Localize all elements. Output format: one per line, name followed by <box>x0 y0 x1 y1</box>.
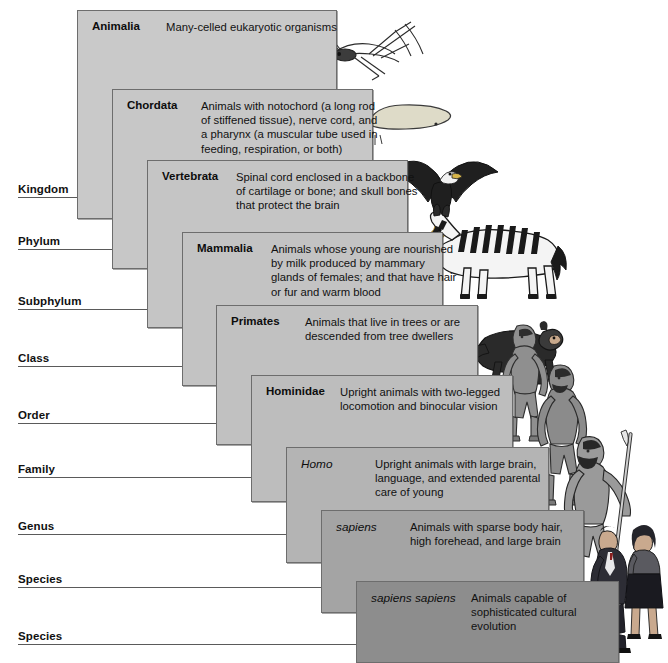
rank-underline <box>18 423 216 424</box>
taxon-card-content: AnimaliaMany-celled eukaryotic organisms <box>92 20 328 34</box>
taxon-description-line: evolution <box>471 619 610 633</box>
taxon-description-line: locomotion and binocular vision <box>340 399 504 413</box>
taxon-description-line: by milk produced by mammary <box>271 256 456 270</box>
taxon-description: Upright animals with large brain,languag… <box>375 457 540 500</box>
taxon-description: Animals capable ofsophisticated cultural… <box>471 591 610 634</box>
taxon-description-line: Animals whose young are nourished <box>271 242 456 256</box>
taxon-description-line: glands of females; and that have hair <box>271 270 456 284</box>
taxon-card-content: sapiensAnimals with sparse body hair,hig… <box>336 520 575 548</box>
taxon-card-sapiens-sapiens: sapiens sapiensAnimals capable ofsophist… <box>356 581 619 663</box>
rank-class-3: Class <box>18 347 182 367</box>
taxon-name: Animalia <box>92 20 166 32</box>
taxon-name: Primates <box>231 315 305 327</box>
rank-label: Order <box>18 409 50 421</box>
taxon-description: Upright animals with two-leggedlocomotio… <box>340 385 504 413</box>
rank-underline <box>18 197 77 198</box>
taxon-name: sapiens <box>336 520 410 534</box>
rank-label: Species <box>18 630 62 642</box>
taxonomy-figure: KingdomPhylumSubphylumClassOrderFamilyGe… <box>0 0 668 663</box>
rank-label: Family <box>18 463 55 475</box>
rank-order-4: Order <box>18 404 216 424</box>
rank-label: Species <box>18 573 62 585</box>
taxon-description-line: sophisticated cultural <box>471 605 610 619</box>
taxon-description-line: of cartilage or bone; and skull bones <box>236 184 418 198</box>
rank-label: Phylum <box>18 235 60 247</box>
rank-species-8: Species <box>18 625 356 645</box>
taxon-description: Animals with notochord (a long rodof sti… <box>201 99 377 156</box>
rank-label: Subphylum <box>18 295 82 307</box>
rank-underline <box>18 366 182 367</box>
taxon-description: Animals with sparse body hair,high foreh… <box>410 520 575 548</box>
rank-subphylum-2: Subphylum <box>18 290 147 310</box>
rank-label: Class <box>18 352 49 364</box>
rank-kingdom-0: Kingdom <box>18 178 77 198</box>
taxon-card-content: VertebrataSpinal cord enclosed in a back… <box>162 170 399 213</box>
taxon-description-line: Animals that live in trees or are <box>305 315 469 329</box>
taxon-card-content: PrimatesAnimals that live in trees or ar… <box>231 315 469 343</box>
rank-family-5: Family <box>18 458 251 478</box>
rank-underline <box>18 644 356 645</box>
taxon-card-content: HominidaeUpright animals with two-legged… <box>266 385 504 413</box>
rank-label: Genus <box>18 520 54 532</box>
taxon-description: Many-celled eukaryotic organisms <box>166 20 337 34</box>
taxon-description-line: a pharynx (a muscular tube used in <box>201 127 377 141</box>
rank-underline <box>18 587 321 588</box>
taxon-description-line: descended from tree dwellers <box>305 329 469 343</box>
rank-underline <box>18 477 251 478</box>
taxon-name: Mammalia <box>197 242 271 254</box>
rank-genus-6: Genus <box>18 515 286 535</box>
taxon-name: Hominidae <box>266 385 340 397</box>
taxon-description-line: Animals with sparse body hair, <box>410 520 575 534</box>
taxon-description-line: Spinal cord enclosed in a backbone <box>236 170 418 184</box>
taxon-description-line: of stiffened tissue), nerve cord, and <box>201 113 377 127</box>
taxon-description-line: Upright animals with large brain, <box>375 457 540 471</box>
taxon-description-line: Animals capable of <box>471 591 610 605</box>
rank-species-7: Species <box>18 568 321 588</box>
taxon-description-line: or fur and warm blood <box>271 285 456 299</box>
taxon-description-line: Upright animals with two-legged <box>340 385 504 399</box>
rank-label: Kingdom <box>18 183 69 195</box>
taxon-description: Spinal cord enclosed in a backboneof car… <box>236 170 418 213</box>
taxon-description: Animals whose young are nourishedby milk… <box>271 242 456 299</box>
taxon-card-content: MammaliaAnimals whose young are nourishe… <box>197 242 434 299</box>
taxon-name: Chordata <box>127 99 201 111</box>
grasshopper-illustration <box>325 14 435 84</box>
rank-underline <box>18 534 286 535</box>
taxon-description: Animals that live in trees or aredescend… <box>305 315 469 343</box>
rank-underline <box>18 249 112 250</box>
taxon-description-line: care of young <box>375 485 540 499</box>
taxon-description-line: feeding, respiration, or both) <box>201 142 377 156</box>
taxon-description-line: that protect the brain <box>236 198 418 212</box>
taxon-name: Homo <box>301 457 375 471</box>
taxon-description-line: Animals with notochord (a long rod <box>201 99 377 113</box>
taxon-card-content: sapiens sapiensAnimals capable ofsophist… <box>371 591 610 634</box>
taxon-description-line: high forehead, and large brain <box>410 534 575 548</box>
rank-underline <box>18 309 147 310</box>
taxon-name: Vertebrata <box>162 170 236 182</box>
taxon-card-content: HomoUpright animals with large brain,lan… <box>301 457 540 500</box>
taxon-description-line: language, and extended parental <box>375 471 540 485</box>
taxon-card-content: ChordataAnimals with notochord (a long r… <box>127 99 364 156</box>
rank-phylum-1: Phylum <box>18 230 112 250</box>
taxon-name: sapiens sapiens <box>371 591 471 605</box>
taxon-description-line: Many-celled eukaryotic organisms <box>166 20 337 34</box>
